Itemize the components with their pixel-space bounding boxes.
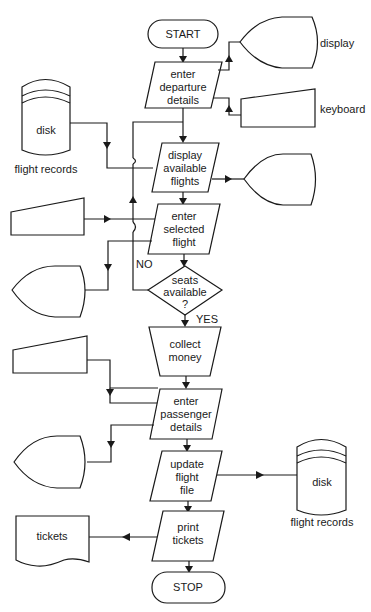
start-label: START [165,28,200,40]
no-branch-label: NO [136,258,153,270]
arrow-up-icon [129,196,137,203]
display-top: display [240,17,355,68]
svg-text:flight: flight [172,236,195,248]
stop-label: STOP [173,581,203,593]
process-display-available-flights: display available flights [152,143,219,192]
arrow-right-icon [104,215,111,223]
arrow-right-icon [225,175,232,183]
svg-text:flights: flights [171,175,200,187]
svg-text:details: details [170,421,202,433]
process-print-tickets: print tickets [152,511,224,561]
svg-text:available: available [163,286,206,298]
svg-text:collect: collect [169,338,200,350]
arrow-down-icon [103,142,111,149]
svg-text:print: print [177,521,198,533]
yes-branch-label: YES [196,313,218,325]
process-update-flight-file: update flight file [150,451,222,501]
svg-text:file: file [180,484,194,496]
svg-text:update: update [170,458,204,470]
decision-seats-available: seats available ? [148,266,222,315]
flight-records-caption: flight records [15,163,78,175]
manual-collect-money: collect money [149,327,221,376]
tickets-label: tickets [36,530,68,542]
svg-text:flight: flight [175,471,198,483]
svg-text:details: details [167,94,199,106]
flight-records-caption: flight records [291,516,354,528]
process-enter-passenger-details: enter passenger details [150,389,222,439]
svg-text:tickets: tickets [172,534,204,546]
svg-text:?: ? [182,298,188,310]
arrow-down-icon [107,441,115,448]
stop-terminator: STOP [152,572,225,603]
svg-text:seats: seats [172,274,199,286]
process-enter-selected-flight: enter selected flight [148,204,220,254]
svg-text:enter: enter [173,395,198,407]
display-right [244,154,316,205]
arrow-down-icon [104,264,112,271]
svg-text:selected: selected [164,223,205,235]
flowchart: START enter departure details display ke… [0,0,371,612]
start-terminator: START [148,20,218,48]
arrow-up-icon [225,55,233,62]
svg-text:display: display [168,149,203,161]
keyboard-mid [11,198,84,235]
disk-label: disk [36,124,56,136]
svg-text:money: money [168,351,202,363]
arrow-left-icon [122,533,130,541]
disk-right: disk flight records [291,440,354,529]
svg-text:enter: enter [170,68,195,80]
keyboard-label: keyboard [320,103,365,115]
svg-text:available: available [163,162,206,174]
disk-label: disk [312,476,332,488]
disk-left: disk flight records [15,80,78,176]
arrow-down-icon [181,320,189,327]
display-label: display [320,37,355,49]
process-enter-departure-details: enter departure details [145,62,222,108]
arrow-up-icon [225,105,233,112]
svg-text:passenger: passenger [160,408,212,420]
arrow-right-icon [256,471,264,479]
document-tickets: tickets [16,516,89,566]
display-low [14,436,85,488]
display-mid [12,266,85,317]
svg-text:enter: enter [171,210,196,222]
keyboard-low [13,336,87,373]
arrow-down-icon [179,136,187,143]
keyboard-top: keyboard [241,89,365,127]
svg-text:departure: departure [159,81,206,93]
arrow-down-icon [182,382,190,389]
